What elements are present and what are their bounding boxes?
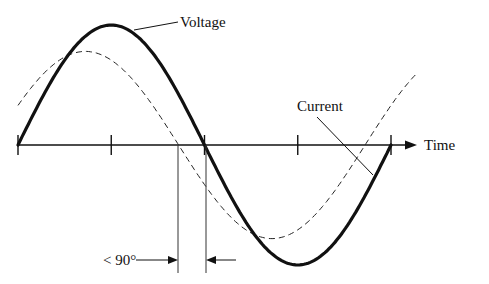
phase-angle-label: < 90° (103, 252, 136, 268)
current-leader-line (317, 117, 373, 175)
voltage-leader-line (134, 22, 178, 30)
phase-arrow-left-head (168, 256, 178, 264)
phase-diagram: Voltage Current Time < 90° (0, 0, 489, 284)
time-axis-arrowhead (405, 141, 417, 150)
time-axis-label: Time (424, 137, 455, 153)
voltage-label: Voltage (180, 14, 226, 30)
current-label: Current (297, 98, 344, 114)
phase-arrow-right-head (206, 256, 216, 264)
